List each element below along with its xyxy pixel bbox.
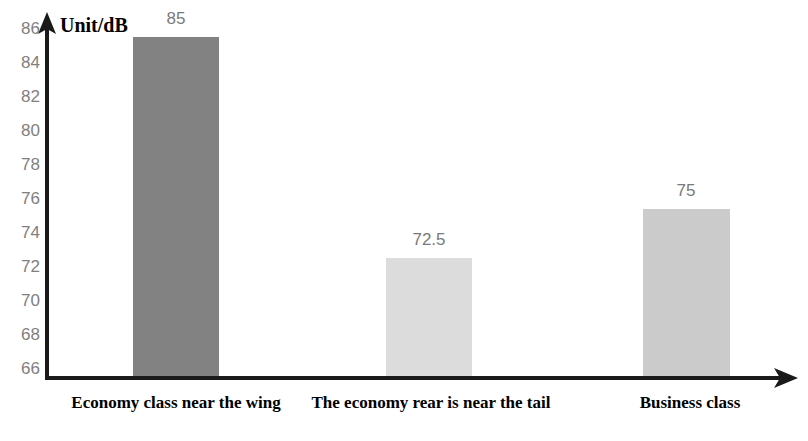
category-label-economy-rear-tail: The economy rear is near the tail (310, 392, 552, 413)
bar-economy-rear-tail (386, 258, 472, 376)
right-arrow-icon (774, 368, 798, 388)
category-label-business-class: Business class (600, 392, 780, 413)
y-tick-label: 80 (2, 122, 40, 139)
y-tick-label: 86 (2, 20, 40, 37)
bar-chart: 86 84 82 80 78 76 74 72 70 68 66 Unit/dB… (0, 0, 808, 441)
y-tick-label: 84 (2, 54, 40, 71)
up-arrow-icon (38, 12, 56, 34)
bar-economy-near-wing (133, 37, 219, 376)
y-axis-title: Unit/dB (60, 14, 128, 37)
bar-value-label: 75 (641, 182, 731, 199)
y-tick-label: 76 (2, 190, 40, 207)
y-tick-label: 66 (2, 360, 40, 377)
y-tick-label: 68 (2, 326, 40, 343)
y-tick-label: 78 (2, 156, 40, 173)
y-tick-label: 72 (2, 258, 40, 275)
category-label-economy-near-wing: Economy class near the wing (56, 392, 296, 413)
bar-value-label: 85 (131, 10, 221, 27)
y-tick-label: 82 (2, 88, 40, 105)
bar-value-label: 72.5 (384, 231, 474, 248)
bar-business-class (643, 209, 730, 376)
y-tick-label: 74 (2, 224, 40, 241)
y-tick-label: 70 (2, 292, 40, 309)
